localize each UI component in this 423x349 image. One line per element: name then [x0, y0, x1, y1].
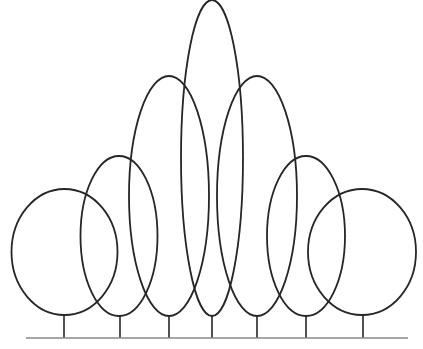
tree-crown-tall-oval	[217, 76, 297, 316]
tree-4	[181, 0, 243, 338]
tree-crown-oval	[267, 156, 345, 316]
tree-6	[267, 156, 345, 338]
tree-2	[81, 156, 158, 338]
tree-crown-round	[12, 189, 118, 315]
tree-crown-round	[308, 189, 416, 315]
tree-group	[12, 0, 417, 338]
tree-crown-tall-oval	[129, 76, 209, 316]
tree-7	[308, 189, 416, 338]
tree-5	[217, 76, 297, 338]
tree-shapes-diagram	[0, 0, 423, 349]
tree-crown-columnar	[181, 0, 243, 316]
tree-1	[12, 189, 118, 338]
